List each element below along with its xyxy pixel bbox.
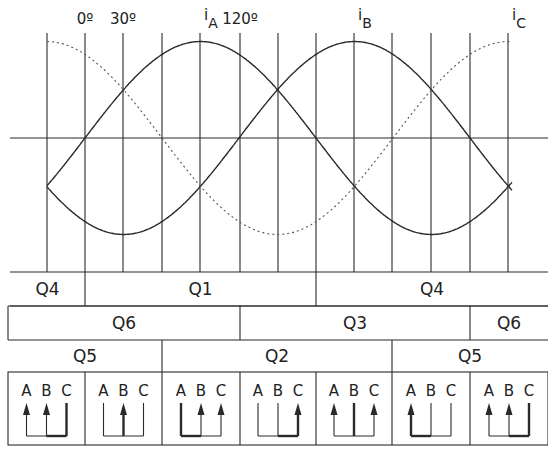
angle-label: 0º [77,10,94,28]
middle-row: Q6Q3Q6 [8,306,548,340]
arrow-up-icon [23,403,30,415]
phase-letter-C: C [138,382,148,400]
angle-label: 120º [222,10,258,28]
phase-letter-B: B [426,382,436,400]
phase-letter-C: C [293,382,303,400]
phase-letter-A: A [406,382,417,400]
switch-conduction-rows: Q4Q1Q4Q6Q3Q6Q5Q2Q5 [8,272,548,372]
phase-letter-C: C [524,382,534,400]
phase-letter-B: B [273,382,283,400]
arrow-up-icon [43,403,50,415]
phase-label-B: iB [358,6,372,31]
phase-letter-C: C [369,382,379,400]
phase-letter-C: C [61,382,71,400]
arrow-up-icon [120,403,127,415]
lower-row: Q5Q2Q5 [73,340,482,372]
phase-letter-A: A [98,382,109,400]
arrow-up-icon [408,403,415,415]
current-flow-box: ABC [21,382,71,436]
phase-letter-B: B [349,382,359,400]
switch-label-Q1: Q1 [188,279,212,299]
switch-label-Q2: Q2 [265,346,289,366]
phase-letter-B: B [41,382,51,400]
phase-letter-A: A [329,382,340,400]
phase-letter-C: C [446,382,456,400]
phase-letter-A: A [21,382,32,400]
angle-labels: 0º30º120º [77,10,258,28]
phase-letter-A: A [176,382,187,400]
arrow-up-icon [218,403,225,415]
switch-label-Q6: Q6 [497,313,521,333]
current-flow-box: ABC [240,372,303,445]
switch-label-Q3: Q3 [343,313,367,333]
switch-label-Q5: Q5 [73,346,97,366]
current-flow-box: ABC [162,372,226,445]
arrow-up-icon [486,403,493,415]
switch-label-Q4: Q4 [35,279,59,299]
phase-label-A: iA [204,6,218,31]
switch-label-Q5: Q5 [458,346,482,366]
upper-A-row: Q4Q1Q4 [10,272,548,306]
arrow-up-icon [331,403,338,415]
vertical-gridlines [47,33,508,272]
phase-letter-B: B [118,382,128,400]
phase-letter-B: B [504,382,514,400]
angle-label: 30º [110,10,136,28]
phase-letter-B: B [196,382,206,400]
phase-letter-C: C [216,382,226,400]
commutation-diagram: 0º30º120º iAiBiC Q4Q1Q4Q6Q3Q6Q5Q2Q5 ABCA… [0,0,548,450]
phase-letter-A: A [253,382,264,400]
current-flow-box: ABC [392,372,456,445]
phase-label-C: iC [512,6,526,31]
switch-label-Q4: Q4 [420,279,444,299]
current-flow-box: ABC [85,372,149,445]
diagram-canvas: 0º30º120º iAiBiC Q4Q1Q4Q6Q3Q6Q5Q2Q5 ABCA… [0,0,548,450]
current-flow-boxes: ABCABCABCABCABCABCABC [8,372,548,445]
phase-letter-A: A [484,382,495,400]
arrow-up-icon [295,403,302,415]
arrow-up-icon [371,403,378,415]
current-flow-box: ABC [316,372,379,445]
switch-label-Q6: Q6 [112,313,136,333]
arrow-up-icon [506,403,513,415]
arrow-up-icon [198,403,205,415]
current-flow-box: ABC [470,372,534,445]
